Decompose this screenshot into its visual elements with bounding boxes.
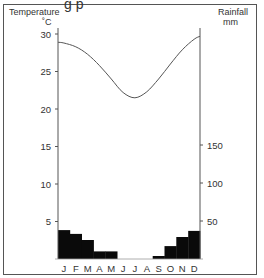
right-axis-unit: mm xyxy=(223,17,238,27)
right-tick-label: 100 xyxy=(207,178,223,189)
month-label: A xyxy=(96,263,103,274)
rainfall-bar xyxy=(70,234,82,259)
right-axis-title: Rainfall xyxy=(218,7,248,17)
left-axis-title: Temperature xyxy=(9,7,60,17)
left-axis-unit: ˚C xyxy=(42,17,52,27)
left-tick-label: 30 xyxy=(40,29,51,40)
left-tick-label: 20 xyxy=(40,104,51,115)
climate-chart: Temperature ˚C Rainfall mm 5101520253050… xyxy=(0,0,264,278)
month-label: J xyxy=(62,263,67,274)
rainfall-bar xyxy=(94,251,106,259)
month-label: J xyxy=(133,263,138,274)
left-tick-label: 15 xyxy=(40,141,51,152)
left-tick-label: 5 xyxy=(46,216,51,227)
rainfall-bar xyxy=(176,237,188,259)
left-tick-label: 10 xyxy=(40,179,51,190)
month-label: A xyxy=(144,263,151,274)
left-tick-label: 25 xyxy=(40,66,51,77)
month-label: D xyxy=(191,263,198,274)
temperature-line xyxy=(58,36,200,98)
month-label: F xyxy=(73,263,79,274)
rainfall-bar xyxy=(82,240,94,259)
rainfall-bar xyxy=(105,251,117,259)
rainfall-bar xyxy=(58,230,70,259)
month-label: M xyxy=(84,263,92,274)
month-label: M xyxy=(107,263,115,274)
month-label: N xyxy=(179,263,186,274)
rainfall-bar xyxy=(153,256,165,259)
rainfall-bar xyxy=(165,246,177,259)
rainfall-bar xyxy=(188,231,200,259)
right-tick-label: 50 xyxy=(207,216,218,227)
month-label: J xyxy=(121,263,126,274)
right-tick-label: 150 xyxy=(207,140,223,151)
month-label: S xyxy=(155,263,161,274)
month-label: O xyxy=(167,263,174,274)
